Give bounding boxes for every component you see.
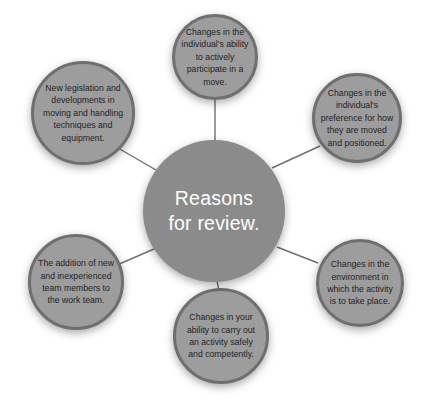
center-node-label: Reasons for review. bbox=[143, 186, 285, 236]
node-label: Changes in the environment in which the … bbox=[319, 258, 401, 307]
node-addition-of-new-team-members[interactable]: The addition of new and inexperienced te… bbox=[28, 234, 124, 330]
node-label: Changes in the individual's ability to a… bbox=[175, 26, 255, 88]
diagram-canvas: Reasons for review. Changes in the indiv… bbox=[0, 0, 423, 398]
connector-preference bbox=[272, 146, 320, 168]
connector-environment bbox=[277, 247, 318, 263]
node-label: Changes in the individual's preference f… bbox=[315, 87, 399, 149]
node-changes-in-environment[interactable]: Changes in the environment in which the … bbox=[316, 239, 404, 327]
node-new-legislation-and-developments[interactable]: New legislation and developments in movi… bbox=[31, 61, 135, 165]
connector-legislation bbox=[118, 148, 156, 170]
center-node-reasons-for-review[interactable]: Reasons for review. bbox=[143, 140, 285, 282]
node-label: Changes in your ability to carry out an … bbox=[176, 311, 266, 360]
node-changes-in-preference[interactable]: Changes in the individual's preference f… bbox=[312, 73, 402, 163]
node-label: New legislation and developments in movi… bbox=[34, 82, 132, 144]
node-changes-in-your-ability[interactable]: Changes in your ability to carry out an … bbox=[173, 288, 269, 384]
node-changes-in-participation[interactable]: Changes in the individual's ability to a… bbox=[172, 14, 258, 100]
connector-new-members bbox=[117, 249, 154, 265]
node-label: The addition of new and inexperienced te… bbox=[31, 257, 121, 306]
